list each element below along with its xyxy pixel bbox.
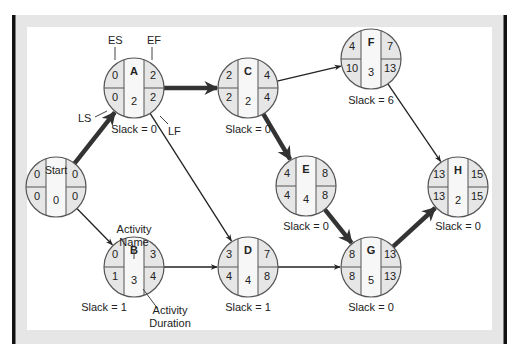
- late-start: 0: [34, 190, 40, 202]
- early-start: 8: [349, 248, 355, 260]
- early-start: 0: [34, 168, 40, 180]
- activity-duration: 2: [455, 194, 461, 206]
- node-c[interactable]: C24242: [218, 58, 278, 118]
- slack-label-h: Slack = 0: [435, 220, 481, 232]
- early-start: 4: [284, 167, 290, 179]
- late-finish: 0: [72, 190, 78, 202]
- late-finish: 8: [264, 270, 270, 282]
- activity-duration: 5: [368, 274, 374, 286]
- activity-name: D: [244, 244, 252, 256]
- activity-name: F: [368, 36, 375, 48]
- late-finish: 13: [384, 62, 396, 74]
- ef-label: EF: [147, 34, 161, 46]
- node-e[interactable]: E48484: [276, 156, 336, 216]
- late-start: 8: [349, 270, 355, 282]
- early-finish: 3: [150, 248, 156, 260]
- slack-label-d: Slack = 1: [225, 301, 271, 313]
- early-finish: 7: [264, 248, 270, 260]
- activity-name-label-line1: Activity: [117, 223, 152, 235]
- early-start: 2: [226, 69, 232, 81]
- late-start: 2: [226, 91, 232, 103]
- network-diagram: Start00000A02022Slack = 0B03143Slack = 1…: [0, 0, 514, 344]
- activity-name: Start: [45, 164, 67, 176]
- late-finish: 2: [150, 91, 156, 103]
- slack-label-a: Slack = 0: [111, 123, 157, 135]
- late-finish: 8: [322, 189, 328, 201]
- early-finish: 7: [387, 40, 393, 52]
- late-finish: 4: [150, 270, 156, 282]
- late-start: 1: [112, 270, 118, 282]
- slack-label-c: Slack = 0: [225, 123, 271, 135]
- late-finish: 13: [384, 270, 396, 282]
- early-start: 0: [112, 248, 118, 260]
- early-finish: 2: [150, 69, 156, 81]
- activity-duration: 0: [53, 194, 59, 206]
- late-start: 4: [284, 189, 290, 201]
- activity-name: A: [130, 65, 138, 77]
- node-d[interactable]: D37484: [218, 237, 278, 297]
- frame-left-border: [12, 15, 16, 344]
- late-start: 10: [346, 62, 358, 74]
- slack-label-g: Slack = 0: [348, 301, 394, 313]
- early-start: 4: [349, 40, 355, 52]
- activity-duration: 2: [245, 95, 251, 107]
- early-finish: 8: [322, 167, 328, 179]
- early-finish: 4: [264, 69, 270, 81]
- early-start: 13: [433, 168, 445, 180]
- activity-duration: 4: [245, 274, 251, 286]
- slack-label-e: Slack = 0: [283, 220, 329, 232]
- activity-duration: 3: [368, 66, 374, 78]
- activity-duration: 2: [131, 95, 137, 107]
- es-label: ES: [108, 34, 123, 46]
- node-g[interactable]: G8138135: [341, 237, 401, 297]
- late-start: 4: [226, 270, 232, 282]
- activity-duration-label-line2: Duration: [149, 317, 191, 329]
- activity-name: G: [367, 244, 376, 256]
- activity-duration: 3: [131, 274, 137, 286]
- late-finish: 15: [471, 190, 483, 202]
- early-finish: 13: [384, 248, 396, 260]
- late-start: 0: [112, 91, 118, 103]
- activity-name: E: [302, 163, 309, 175]
- slack-label-b: Slack = 1: [81, 301, 127, 313]
- lf-label: LF: [168, 125, 181, 137]
- late-finish: 4: [264, 91, 270, 103]
- ls-label: LS: [78, 112, 91, 124]
- early-finish: 0: [72, 168, 78, 180]
- early-start: 3: [226, 248, 232, 260]
- activity-name-label-line2: Name: [119, 236, 148, 248]
- activity-name: C: [244, 65, 252, 77]
- node-a[interactable]: A02022: [104, 58, 164, 118]
- node-start[interactable]: Start00000: [26, 157, 86, 217]
- frame-right-border: [504, 15, 508, 344]
- node-h[interactable]: H131513152: [428, 157, 488, 217]
- late-start: 13: [433, 190, 445, 202]
- activity-name: H: [454, 164, 462, 176]
- activity-duration: 4: [303, 193, 309, 205]
- node-f[interactable]: F4710133: [341, 29, 401, 89]
- activity-duration-label-line1: Activity: [153, 304, 188, 316]
- early-finish: 15: [471, 168, 483, 180]
- slack-label-f: Slack = 6: [348, 94, 394, 106]
- early-start: 0: [112, 69, 118, 81]
